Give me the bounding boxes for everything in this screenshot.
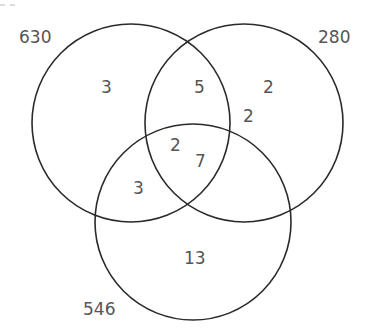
region-a-and-c: 3 — [133, 178, 144, 198]
set-a-label: 630 — [19, 27, 51, 47]
region-only-c: 13 — [184, 248, 206, 268]
region-only-b: 2 — [263, 77, 274, 97]
region-center-top: 2 — [170, 135, 181, 155]
region-a-and-b: 5 — [194, 77, 205, 97]
region-center-right: 7 — [195, 151, 206, 171]
venn-diagram: 630 280 546 3 5 2 2 2 7 3 13 — [0, 0, 369, 335]
region-only-a: 3 — [101, 77, 112, 97]
circle-set-a — [32, 24, 230, 222]
set-b-label: 280 — [318, 27, 350, 47]
region-b-and-c: 2 — [243, 106, 254, 126]
set-c-label: 546 — [83, 299, 115, 319]
